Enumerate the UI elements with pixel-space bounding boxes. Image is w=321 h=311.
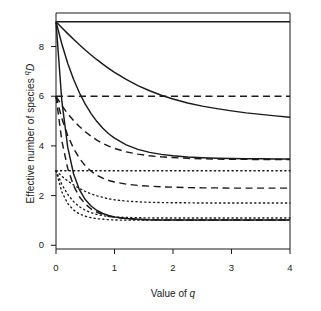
- x-tick-label: 4: [278, 263, 302, 273]
- diversity-profile-figure: 02468 01234 Effective number of species …: [0, 0, 321, 311]
- series-line: [56, 22, 290, 118]
- series-line: [56, 171, 290, 218]
- x-tick-label: 0: [44, 263, 68, 273]
- x-tick-label: 1: [103, 263, 127, 273]
- x-tick-label-layer: 01234: [0, 263, 321, 277]
- series-line: [56, 22, 290, 220]
- y-tick-label: 0: [14, 240, 44, 250]
- y-axis-title: Effective number of species qD: [22, 29, 35, 239]
- x-axis-title: Value of q: [56, 288, 290, 299]
- series-layer: [56, 22, 290, 220]
- series-line: [56, 22, 290, 159]
- series-line: [56, 96, 290, 159]
- series-line: [56, 96, 290, 188]
- series-line: [56, 171, 290, 203]
- x-tick-label: 2: [161, 263, 185, 273]
- x-tick-label: 3: [220, 263, 244, 273]
